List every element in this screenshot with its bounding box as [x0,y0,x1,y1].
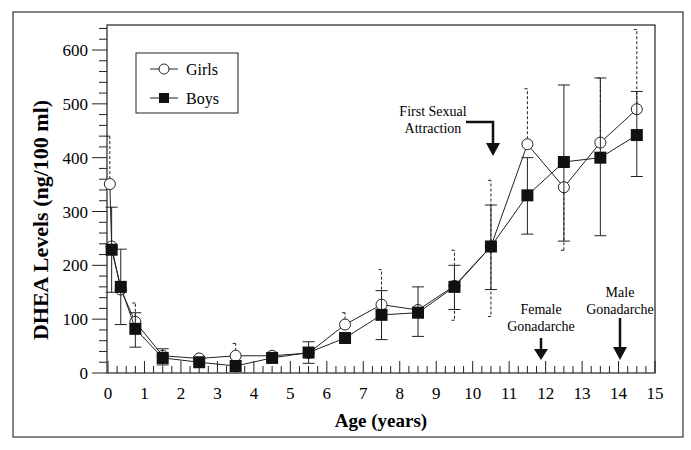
x-tick-label: 9 [432,384,441,403]
data-point [339,332,351,344]
dhea-chart: 0100200300400500600 01234567891011121314… [0,0,691,450]
x-tick-label: 3 [213,384,222,403]
data-point [230,350,241,361]
x-tick-label: 4 [250,384,259,403]
arrow-down-icon [486,143,500,156]
data-point [558,156,570,168]
data-point [303,347,315,359]
legend: Girls Boys [136,53,238,113]
x-tick-label: 1 [140,384,149,403]
svg-text:Female: Female [520,302,561,317]
y-tick-label: 300 [63,203,89,222]
arrow-down-icon [613,347,627,360]
x-tick-label: 0 [104,384,113,403]
girls-marker-icon [159,64,169,74]
svg-text:First Sexual: First Sexual [399,104,466,119]
data-point [157,352,169,364]
data-point [448,281,460,293]
data-point [522,139,533,150]
boys-marker-icon [159,93,169,103]
x-tick-label: 14 [610,384,628,403]
data-point [376,309,388,321]
data-point [266,352,278,364]
data-point [412,307,424,319]
x-tick-label: 12 [537,384,554,403]
data-point [115,281,127,293]
svg-text:Gonadarche: Gonadarche [507,319,575,334]
data-point [521,189,533,201]
x-tick-label: 8 [396,384,405,403]
data-point [340,319,351,330]
y-tick-label: 500 [63,95,89,114]
x-tick-label: 5 [286,384,295,403]
y-tick-label: 200 [63,256,89,275]
y-axis: 0100200300400500600 [63,28,108,383]
data-point [104,179,115,190]
x-tick-label: 10 [464,384,481,403]
data-point [631,129,643,141]
data-point [193,356,205,368]
y-axis-title: DHEA Levels (ng/100 ml) [28,100,53,340]
data-point [106,244,118,256]
annotation-male-gonadarche: Male Gonadarche [586,285,654,360]
x-tick-label: 7 [359,384,368,403]
annotation-female-gonadarche: Female Gonadarche [507,302,575,360]
data-point [230,360,242,372]
svg-text:Attraction: Attraction [405,121,462,136]
y-tick-label: 100 [63,310,89,329]
data-point [129,323,141,335]
x-axis-title: Age (years) [335,410,427,432]
x-tick-label: 15 [647,384,664,403]
x-tick-label: 13 [574,384,591,403]
annotation-first-sexual-attraction: First Sexual Attraction [399,104,500,156]
svg-text:Male: Male [606,285,635,300]
svg-text:Gonadarche: Gonadarche [586,302,654,317]
x-tick-label: 6 [323,384,332,403]
x-tick-label: 11 [501,384,517,403]
y-tick-label: 0 [80,364,89,383]
y-tick-label: 600 [63,41,89,60]
data-point [485,240,497,252]
x-tick-label: 2 [177,384,186,403]
data-point [594,152,606,164]
x-axis: 0123456789101112131415 [104,361,664,403]
legend-boys-label: Boys [186,90,219,108]
arrow-down-icon [534,349,548,360]
legend-girls-label: Girls [186,61,218,78]
y-tick-label: 400 [63,149,89,168]
